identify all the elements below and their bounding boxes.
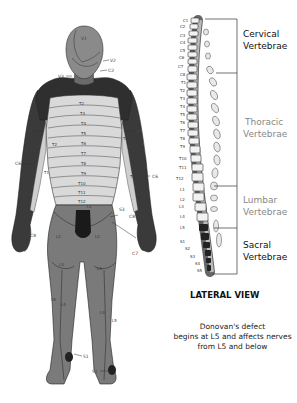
svg-text:T6: T6: [179, 120, 185, 125]
svg-text:C8: C8: [129, 214, 135, 219]
label-v3: V3: [58, 74, 64, 79]
svg-text:C5: C5: [26, 129, 32, 134]
svg-text:T5: T5: [80, 131, 86, 136]
head: [66, 26, 103, 79]
label-c2: C2: [108, 68, 114, 73]
svg-text:T8: T8: [80, 161, 86, 166]
svg-text:L5: L5: [180, 225, 185, 230]
svg-text:L4: L4: [100, 310, 105, 315]
svg-text:L4: L4: [61, 302, 66, 307]
svg-text:T5: T5: [179, 112, 185, 117]
svg-text:T3: T3: [179, 96, 185, 101]
svg-text:C7: C7: [132, 251, 138, 256]
svg-text:C8: C8: [180, 72, 186, 77]
svg-text:T12: T12: [77, 199, 86, 204]
svg-text:T3: T3: [79, 111, 85, 116]
svg-text:L3: L3: [179, 204, 184, 209]
svg-text:T9: T9: [80, 171, 86, 176]
svg-text:T12: T12: [175, 176, 184, 181]
svg-text:T1: T1: [43, 170, 49, 175]
region-lumbar: Lumbar: [243, 195, 278, 205]
svg-text:Vertebrae: Vertebrae: [243, 41, 288, 51]
svg-text:S2: S2: [185, 246, 191, 251]
svg-text:T6: T6: [80, 141, 86, 146]
svg-text:S3: S3: [119, 207, 125, 212]
svg-text:Vertebrae: Vertebrae: [243, 207, 288, 217]
svg-text:T4: T4: [80, 121, 86, 126]
svg-text:T2: T2: [122, 136, 128, 141]
spine: C1 C2 C3 C4 C5 C6 C7 C8 T1 T2 T3 T4 T5 T…: [175, 18, 237, 274]
body-figure: [12, 26, 156, 384]
figure-note: Donovan's defect begins at L5 and affect…: [170, 322, 295, 352]
svg-text:T10: T10: [178, 156, 187, 161]
svg-text:C6: C6: [179, 55, 185, 60]
svg-text:L1: L1: [87, 204, 92, 209]
svg-text:C7: C7: [20, 248, 26, 253]
svg-text:C6: C6: [152, 174, 158, 179]
svg-text:T11: T11: [178, 165, 187, 170]
spine-region-labels: Cervical Vertebrae Thoracic Vertebrae Lu…: [243, 29, 288, 262]
svg-text:T2: T2: [179, 88, 185, 93]
figure-title: LATERAL VIEW: [190, 290, 259, 300]
svg-text:L4: L4: [180, 214, 185, 219]
svg-text:S3: S3: [190, 254, 196, 259]
svg-text:S1: S1: [92, 369, 98, 374]
svg-text:S1: S1: [83, 354, 89, 359]
svg-text:T1: T1: [180, 80, 186, 85]
svg-text:T4: T4: [179, 104, 185, 109]
label-v1: V1: [81, 36, 87, 41]
svg-text:Vertebrae: Vertebrae: [243, 129, 288, 139]
svg-text:T1: T1: [129, 174, 135, 179]
svg-text:L5: L5: [112, 318, 117, 323]
svg-text:C8: C8: [30, 233, 36, 238]
svg-text:L5: L5: [51, 297, 56, 302]
svg-text:T8: T8: [179, 136, 185, 141]
svg-text:L2: L2: [95, 234, 100, 239]
svg-text:C4: C4: [180, 40, 186, 45]
svg-text:S1: S1: [180, 239, 186, 244]
svg-text:T11: T11: [77, 190, 86, 195]
note-line-2: begins at L5 and affects nerves: [170, 332, 295, 342]
svg-text:L2: L2: [56, 234, 61, 239]
svg-text:T9: T9: [179, 144, 185, 149]
svg-text:T7: T7: [80, 151, 86, 156]
svg-text:T10: T10: [77, 181, 86, 186]
svg-text:C1: C1: [183, 18, 189, 23]
note-line-1: Donovan's defect: [170, 322, 295, 332]
svg-text:T2: T2: [78, 101, 84, 106]
region-thoracic: Thoracic: [244, 117, 283, 127]
svg-text:C6: C6: [15, 161, 21, 166]
svg-text:L1: L1: [180, 187, 185, 192]
svg-text:L2: L2: [180, 197, 185, 202]
region-sacral: Sacral: [243, 240, 271, 250]
svg-text:L3: L3: [59, 262, 64, 267]
groin: [75, 210, 91, 238]
svg-text:S5: S5: [197, 268, 203, 273]
svg-text:Vertebrae: Vertebrae: [243, 252, 288, 262]
note-line-3: from L5 and below: [170, 342, 295, 352]
svg-text:C7: C7: [178, 64, 184, 69]
svg-text:T2: T2: [51, 142, 57, 147]
label-v2: V2: [110, 58, 116, 63]
svg-text:T7: T7: [179, 128, 185, 133]
svg-text:S4: S4: [195, 261, 201, 266]
svg-text:C2: C2: [180, 24, 186, 29]
svg-text:C5: C5: [136, 129, 142, 134]
region-cervical: Cervical: [243, 29, 279, 39]
svg-text:L3: L3: [97, 266, 102, 271]
svg-text:C5: C5: [180, 48, 186, 53]
svg-text:C3: C3: [180, 33, 186, 38]
